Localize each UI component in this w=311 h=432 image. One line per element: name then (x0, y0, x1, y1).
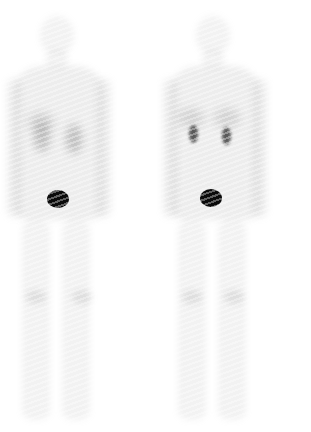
left-leg-silhouette (22, 220, 50, 420)
left-knee-uptake (182, 290, 202, 304)
left-arm-silhouette (162, 78, 178, 218)
right-kidney-uptake (222, 127, 231, 145)
right-leg-silhouette (62, 220, 90, 420)
left-kidney-uptake (189, 125, 198, 143)
left-arm-silhouette (6, 78, 22, 218)
bladder-uptake (200, 189, 222, 207)
right-kidney-uptake (66, 124, 82, 154)
left-leg-silhouette (178, 220, 206, 420)
upper-abdomen-uptake (214, 108, 240, 128)
right-arm-silhouette (252, 78, 268, 218)
right-knee-uptake (72, 290, 92, 304)
head-silhouette (40, 16, 74, 54)
head-silhouette (196, 16, 230, 54)
right-knee-uptake (224, 290, 244, 304)
left-kidney-uptake (34, 122, 50, 152)
right-arm-silhouette (96, 78, 112, 218)
scan-view-left (0, 0, 155, 432)
scan-view-right (156, 0, 311, 432)
right-leg-silhouette (218, 220, 246, 420)
left-knee-uptake (26, 290, 46, 304)
bladder-uptake (47, 190, 69, 208)
